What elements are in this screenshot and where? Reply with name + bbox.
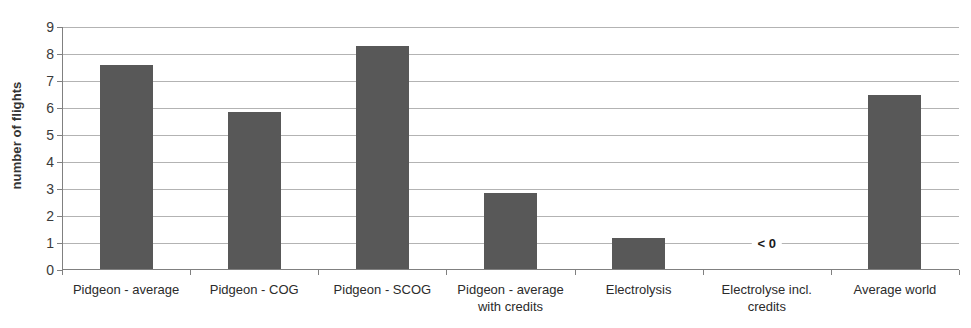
gridline [62, 189, 959, 190]
x-tick-mark [318, 270, 319, 275]
y-axis-title: number of flights [2, 0, 32, 270]
y-tick-label: 3 [46, 182, 54, 196]
gridline [62, 27, 959, 28]
x-tick-mark [575, 270, 576, 275]
x-tick-mark [703, 270, 704, 275]
y-axis-ticks: 9876543210 [32, 27, 62, 270]
bar[interactable] [612, 238, 665, 270]
x-tick-mark [446, 270, 447, 275]
x-tick-mark [62, 270, 63, 275]
x-tick-mark [190, 270, 191, 275]
y-tick-label: 1 [46, 236, 54, 250]
x-tick-mark [959, 270, 960, 275]
y-axis-line [62, 27, 63, 270]
y-tick-label: 7 [46, 74, 54, 88]
y-axis-title-label: number of flights [10, 81, 25, 189]
x-axis-category-label: Average world [833, 281, 957, 298]
x-axis-category-label: Electrolysis [577, 281, 701, 298]
bar[interactable] [484, 193, 537, 270]
gridline [62, 81, 959, 82]
y-tick-label: 8 [46, 47, 54, 61]
y-tick-label: 5 [46, 128, 54, 142]
plot-area: < 0 [62, 27, 959, 270]
x-axis-category-label: Pidgeon - average with credits [448, 281, 572, 315]
bar[interactable] [228, 112, 281, 270]
bar[interactable] [356, 46, 409, 270]
gridline [62, 162, 959, 163]
x-axis-category-label: Pidgeon - average [64, 281, 188, 298]
bar[interactable] [100, 65, 153, 270]
y-tick-label: 0 [46, 263, 54, 277]
x-tick-mark [831, 270, 832, 275]
gridline [62, 108, 959, 109]
x-axis-category-label: Electrolyse incl. credits [705, 281, 829, 315]
gridline [62, 135, 959, 136]
bar[interactable] [868, 95, 921, 271]
y-tick-label: 2 [46, 209, 54, 223]
x-axis-labels: Pidgeon - averagePidgeon - COGPidgeon - … [62, 281, 959, 327]
x-axis-category-label: Pidgeon - SCOG [320, 281, 444, 298]
x-axis-category-label: Pidgeon - COG [192, 281, 316, 298]
bar-chart: number of flights 9876543210 < 0 Pidgeon… [0, 0, 971, 328]
gridline [62, 54, 959, 55]
x-axis-line [62, 269, 959, 270]
y-tick-label: 6 [46, 101, 54, 115]
bar-value-annotation: < 0 [752, 236, 782, 251]
y-tick-label: 4 [46, 155, 54, 169]
y-tick-label: 9 [46, 20, 54, 34]
